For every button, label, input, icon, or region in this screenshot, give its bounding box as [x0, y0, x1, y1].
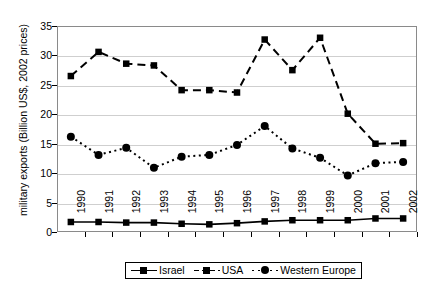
y-axis-tick-mark	[52, 232, 57, 233]
y-axis-tick-label: 35	[30, 21, 52, 31]
x-axis-tick-label: 1991	[104, 190, 115, 236]
x-axis-tick-label: 1995	[214, 190, 225, 236]
y-axis-tick-mark	[52, 55, 57, 56]
x-axis-tick-label: 2002	[408, 190, 419, 236]
legend-item-western-europe: Western Europe	[252, 265, 356, 276]
legend-marker-square-dashed-icon	[194, 266, 220, 275]
x-axis-tick-mark	[251, 232, 252, 237]
x-axis-tick-label: 1994	[187, 190, 198, 236]
x-axis-tick-mark	[168, 232, 169, 237]
x-axis-tick-mark	[306, 232, 307, 237]
legend-item-israel: Israel	[131, 265, 185, 276]
x-axis-tick-label: 2001	[380, 190, 391, 236]
x-axis-tick-mark	[417, 232, 418, 237]
legend-item-usa: USA	[194, 265, 244, 276]
x-axis-tick-mark	[334, 232, 335, 237]
x-axis-tick-mark	[389, 232, 390, 237]
x-axis-tick-label: 1990	[76, 190, 87, 236]
legend-marker-circle-dotted-icon	[252, 266, 278, 275]
chart-legend: Israel USA Western Europe	[125, 262, 362, 279]
y-axis-tick-label: 25	[30, 80, 52, 90]
legend-marker-square-solid-icon	[131, 266, 157, 275]
x-axis-tick-mark	[223, 232, 224, 237]
y-axis-tick-label: 20	[30, 109, 52, 119]
x-axis-tick-label: 1999	[325, 190, 336, 236]
x-axis-tick-mark	[85, 232, 86, 237]
x-axis-tick-mark	[195, 232, 196, 237]
gridline	[58, 115, 416, 116]
x-axis-tick-label: 1993	[159, 190, 170, 236]
y-axis-tick-label: 15	[30, 139, 52, 149]
x-axis-tick-label: 1997	[270, 190, 281, 236]
y-axis-tick-label: 30	[30, 50, 52, 60]
x-axis-tick-label: 1992	[131, 190, 142, 236]
y-axis-tick-mark	[52, 173, 57, 174]
x-axis-tick-mark	[112, 232, 113, 237]
x-axis-tick-label: 1996	[242, 190, 253, 236]
gridline	[58, 174, 416, 175]
y-axis-tick-label: 5	[30, 198, 52, 208]
y-axis-tick-mark	[52, 144, 57, 145]
y-axis-tick-mark	[52, 26, 57, 27]
legend-label-usa: USA	[222, 265, 244, 276]
y-axis-tick-label: 10	[30, 168, 52, 178]
legend-label-western-europe: Western Europe	[280, 265, 356, 276]
y-axis-tick-mark	[52, 85, 57, 86]
legend-label-israel: Israel	[159, 265, 185, 276]
x-axis-tick-mark	[279, 232, 280, 237]
y-axis-tick-label: 0	[30, 227, 52, 237]
y-axis-tick-labels: 05101520253035	[0, 0, 52, 288]
x-axis-tick-label: 2000	[353, 190, 364, 236]
gridline	[58, 145, 416, 146]
y-axis-tick-mark	[52, 114, 57, 115]
x-axis-tick-mark	[140, 232, 141, 237]
gridline	[58, 86, 416, 87]
x-axis-tick-label: 1998	[297, 190, 308, 236]
gridline	[58, 56, 416, 57]
x-axis-tick-mark	[362, 232, 363, 237]
military-exports-line-chart: military exports (Billion US$, 2002 pric…	[0, 0, 448, 288]
y-axis-tick-mark	[52, 203, 57, 204]
